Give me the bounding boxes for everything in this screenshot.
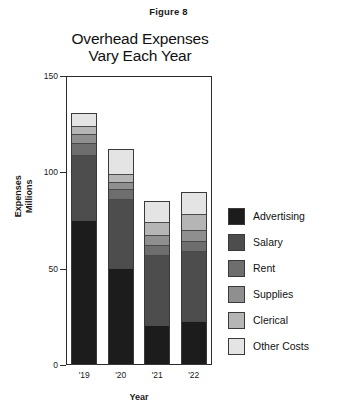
bar-segment-other-costs[interactable] [145,202,169,223]
bar-segment-rent[interactable] [109,190,133,200]
legend-item-other-costs[interactable]: Other Costs [228,333,309,359]
legend-label: Clerical [253,314,288,326]
figure-container: Figure 8 Overhead Expenses Vary Each Yea… [0,0,337,415]
bar-segment-other-costs[interactable] [182,193,206,216]
legend-item-rent[interactable]: Rent [228,255,309,281]
x-tick-label-21: '21 [137,370,177,380]
bar-segment-salary[interactable] [145,256,169,326]
bar-segment-rent[interactable] [145,246,169,256]
legend-item-advertising[interactable]: Advertising [228,203,309,229]
bar-segment-clerical[interactable] [145,223,169,236]
chart-legend: AdvertisingSalaryRentSuppliesClericalOth… [228,203,309,359]
bar-segment-supplies[interactable] [109,183,133,191]
legend-swatch-icon [228,234,245,251]
y-tick-label-50: 50 [18,264,58,274]
y-tick-label-150: 150 [18,71,58,81]
bar-21[interactable] [144,201,170,365]
bar-19[interactable] [71,113,97,365]
bar-segment-advertising[interactable] [145,326,169,364]
chart-title-line-2: Vary Each Year [30,47,250,64]
bar-segment-advertising[interactable] [72,221,96,364]
bar-segment-clerical[interactable] [182,215,206,230]
legend-label: Salary [253,236,283,248]
chart-title: Overhead Expenses Vary Each Year [30,30,250,65]
chart-title-line-1: Overhead Expenses [71,30,208,47]
bar-segment-advertising[interactable] [109,269,133,364]
legend-label: Rent [253,262,275,274]
bar-20[interactable] [108,149,134,365]
bar-segment-supplies[interactable] [182,231,206,242]
x-tick-label-20: '20 [101,370,141,380]
bar-segment-clerical[interactable] [109,175,133,183]
legend-swatch-icon [228,208,245,225]
legend-swatch-icon [228,312,245,329]
legend-item-clerical[interactable]: Clerical [228,307,309,333]
bar-segment-salary[interactable] [109,200,133,269]
bar-segment-supplies[interactable] [145,236,169,246]
y-tick-label-0: 0 [18,360,58,370]
bar-segment-salary[interactable] [182,252,206,322]
bar-segment-salary[interactable] [72,156,96,221]
x-tick-label-22: '22 [174,370,214,380]
legend-swatch-icon [228,286,245,303]
bar-segment-advertising[interactable] [182,322,206,364]
y-axis-title-main: Expenses [13,175,23,217]
bar-segment-other-costs[interactable] [72,114,96,127]
legend-swatch-icon [228,338,245,355]
legend-item-salary[interactable]: Salary [228,229,309,255]
bar-segment-rent[interactable] [182,242,206,252]
x-axis-title: Year [66,392,212,402]
legend-label: Other Costs [253,340,309,352]
y-tick-label-100: 100 [18,167,58,177]
legend-label: Supplies [253,288,293,300]
legend-item-supplies[interactable]: Supplies [228,281,309,307]
legend-label: Advertising [253,210,305,222]
bar-segment-supplies[interactable] [72,135,96,145]
figure-caption: Figure 8 [0,6,337,17]
x-tick-label-19: '19 [64,370,104,380]
bar-22[interactable] [181,192,207,365]
bar-segment-other-costs[interactable] [109,150,133,175]
bar-segment-clerical[interactable] [72,127,96,135]
bar-segment-rent[interactable] [72,144,96,155]
legend-swatch-icon [228,260,245,277]
y-tick-mark-0 [60,365,66,366]
